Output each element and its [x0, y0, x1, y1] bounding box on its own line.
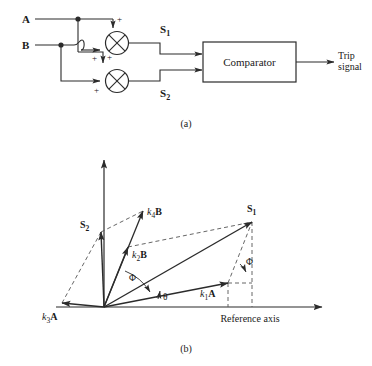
dashed-s2-to-k4b: [101, 211, 143, 232]
angle-label-phi-left: Φ: [129, 273, 136, 283]
input-label-b: B: [22, 39, 30, 51]
comparator-label: Comparator: [223, 56, 276, 68]
angle-arc-theta: [158, 291, 160, 299]
phasor-diagram: Reference axis k1A k2B k4B k3A: [42, 160, 322, 355]
vector-label-k3a: k3A: [42, 311, 58, 325]
reference-axis-label: Reference axis: [220, 313, 279, 324]
trip-signal-label: Trip signal: [338, 50, 362, 72]
plus-sign-mixer-bottom-2: +: [94, 85, 99, 95]
signal-label-s1: S1: [160, 23, 170, 38]
wire-a-to-mixer-bottom: [78, 52, 103, 63]
dashed-k2b-to-s1: [128, 222, 252, 247]
angle-label-phi-right: Φ: [246, 257, 253, 267]
figure-container: A + + B + +: [0, 0, 372, 366]
mixer-bottom: [106, 70, 129, 93]
caption-b: (b): [180, 343, 192, 355]
angle-label-theta: θ: [163, 292, 168, 302]
resultant-label-s1: S1: [247, 203, 257, 217]
resultant-vector-s1: [104, 222, 252, 307]
vector-label-k1a: k1A: [200, 288, 216, 302]
plus-sign-mixer-top-1: +: [117, 14, 122, 24]
dashed-s2-to-k3a: [62, 232, 101, 303]
resultant-label-s2: S2: [80, 219, 90, 233]
signal-label-s2: S2: [160, 87, 170, 102]
vector-label-k4b: k4B: [147, 206, 162, 220]
figure-svg: A + + B + +: [0, 0, 372, 366]
wire-s1-to-comparator: [129, 43, 203, 54]
plus-sign-mixer-top-2: +: [92, 53, 97, 63]
dashed-k1a-to-s1: [228, 222, 252, 283]
block-diagram: A + + B + +: [22, 13, 362, 130]
wire-hop: [74, 40, 84, 50]
mixer-top: [106, 32, 129, 55]
wire-s2-to-comparator: [129, 70, 203, 81]
caption-a: (a): [180, 118, 191, 130]
vector-label-k2b: k2B: [132, 249, 147, 263]
input-label-a: A: [22, 13, 30, 25]
